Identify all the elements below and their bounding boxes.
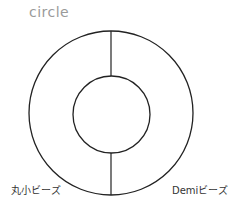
inner-circle xyxy=(73,76,150,153)
label-maru-small-beads: 丸小ビーズ xyxy=(11,182,61,197)
label-demi-beads: Demiビーズ xyxy=(172,182,228,197)
